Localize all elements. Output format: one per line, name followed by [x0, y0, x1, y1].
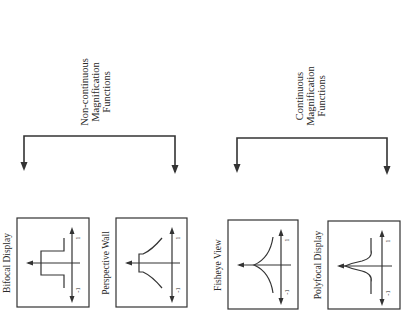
group-noncontinuous: Non-continuous Magnification Functions B…	[2, 58, 187, 307]
magnification-taxonomy-diagram: Non-continuous Magnification Functions B…	[0, 0, 411, 328]
panel-bifocal-display: Bifocal Display 1 -1	[2, 218, 89, 307]
arrow-up-icon	[70, 227, 75, 234]
arrow-up-icon	[380, 230, 385, 237]
panel-label: Perspective Wall	[101, 231, 111, 295]
arrow-up-icon	[170, 227, 175, 234]
arrowhead-icon	[172, 165, 179, 174]
panel-perspective-wall: Perspective Wall 1 -1	[101, 218, 187, 307]
axis-label-pos: 1	[174, 236, 181, 239]
axis-label-pos: 1	[384, 239, 391, 242]
panel-label: Bifocal Display	[2, 233, 12, 293]
group-title-line-3: Functions	[101, 71, 112, 112]
panel-fisheye-view: Fisheye View 1 -1	[213, 220, 298, 309]
arrow-left-icon	[125, 261, 132, 266]
bracket-connector	[24, 136, 175, 172]
panel-polyfocal-display: Polyfocal Display 1 -1	[313, 221, 400, 309]
arrow-up-icon	[279, 229, 284, 236]
arrow-down-icon	[279, 298, 284, 305]
panel-label: Fisheye View	[213, 239, 223, 291]
panel-label: Polyfocal Display	[313, 231, 323, 300]
group-title-line-1: Non-continuous	[79, 58, 90, 126]
group-title-line-2: Magnification	[305, 66, 316, 126]
arrow-left-icon	[237, 263, 244, 268]
axis-label-neg: -1	[174, 287, 181, 292]
arrowhead-icon	[234, 164, 241, 173]
bracket-connector	[237, 138, 387, 172]
arrowhead-icon	[384, 166, 391, 175]
axis-label-neg: -1	[384, 290, 391, 295]
arrow-down-icon	[170, 296, 175, 303]
arrow-down-icon	[70, 296, 75, 303]
group-title-line-1: Continuous	[294, 72, 305, 120]
group-continuous: Continuous Magnification Functions Fishe…	[213, 66, 400, 309]
arrow-left-icon	[26, 261, 33, 266]
group-title-line-2: Magnification	[90, 62, 101, 122]
axis-label-pos: 1	[283, 238, 290, 241]
arrowhead-icon	[21, 162, 28, 171]
axis-label-neg: -1	[74, 287, 81, 292]
group-title-line-3: Functions	[316, 75, 327, 116]
axis-label-neg: -1	[283, 289, 290, 294]
arrow-down-icon	[380, 299, 385, 306]
axis-label-pos: 1	[74, 236, 81, 239]
arrow-left-icon	[337, 264, 344, 269]
